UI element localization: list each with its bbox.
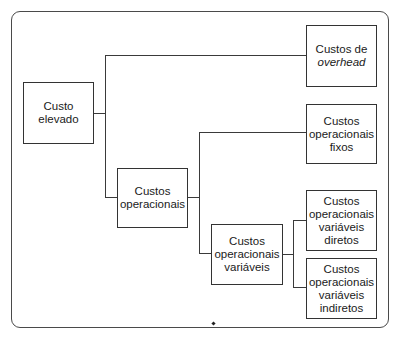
- node-label-line: variáveis: [309, 289, 374, 302]
- node-label-line: operacionais: [214, 248, 279, 261]
- connector-operacionais-trunk: [199, 132, 200, 254]
- node-custos-overhead: Custos de overhead: [306, 25, 377, 87]
- connector-to-fixos: [199, 132, 306, 133]
- connector-to-indiretos: [293, 287, 306, 288]
- node-label-line: Custos: [309, 195, 374, 208]
- node-label-line: elevado: [38, 113, 78, 126]
- connector-root-trunk: [105, 55, 106, 198]
- connector-root-out: [93, 113, 105, 114]
- node-custos-operacionais-variaveis-indiretos: Custos operacionais variáveis indiretos: [306, 258, 377, 319]
- node-custos-operacionais-variaveis-diretos: Custos operacionais variáveis diretos: [306, 190, 377, 251]
- node-label-line: Custos: [309, 263, 374, 276]
- node-label-line: Custos: [214, 235, 279, 248]
- node-custos-operacionais-fixos: Custos operacionais fixos: [306, 104, 377, 164]
- node-label-line: operacionais: [309, 208, 374, 221]
- connector-to-overhead: [105, 55, 306, 56]
- node-label-line-italic: overhead: [316, 56, 368, 69]
- connector-variaveis-trunk: [293, 220, 294, 288]
- node-label-line: indiretos: [309, 302, 374, 315]
- node-custos-operacionais: Custos operacionais: [117, 168, 188, 228]
- connector-operacionais-out: [187, 197, 199, 198]
- connector-variaveis-out: [282, 254, 293, 255]
- node-label-line: operacionais: [120, 198, 185, 211]
- node-label-line: Custos: [309, 115, 374, 128]
- node-label-line: variáveis: [214, 261, 279, 274]
- connector-to-operacionais: [105, 197, 117, 198]
- node-label-line: operacionais: [309, 128, 374, 141]
- node-custo-elevado: Custo elevado: [23, 82, 94, 144]
- connector-to-diretos: [293, 220, 306, 221]
- node-label-line: Custo: [38, 100, 78, 113]
- node-label-line: Custos: [120, 185, 185, 198]
- node-label-line: operacionais: [309, 276, 374, 289]
- node-label-line: diretos: [309, 234, 374, 247]
- node-label-line: Custos de: [316, 43, 368, 56]
- node-label-line: variáveis: [309, 221, 374, 234]
- node-custos-operacionais-variaveis: Custos operacionais variáveis: [211, 224, 283, 285]
- connector-to-variaveis: [199, 253, 211, 254]
- node-label-line: fixos: [309, 141, 374, 154]
